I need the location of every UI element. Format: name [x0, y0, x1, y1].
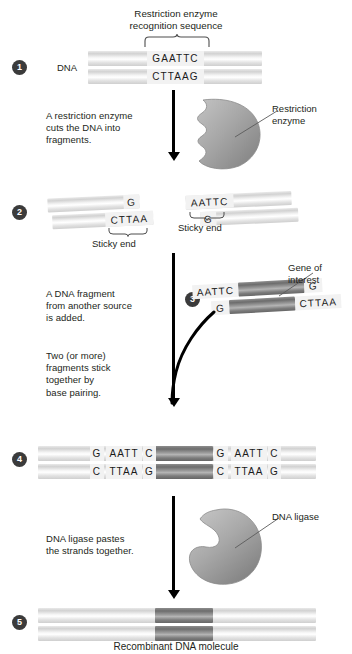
recognition-sequence-title: Restriction enzyme recognition sequence	[96, 8, 256, 32]
step4-gene-of-interest-top	[155, 446, 213, 461]
step1-caption-line3: fragments.	[46, 134, 166, 146]
step4-caption-line2: fragments stick	[46, 362, 166, 374]
step3-curved-arrow	[168, 310, 220, 405]
step-badge-1-number: 1	[17, 63, 22, 72]
step-badge-5-number: 5	[17, 618, 22, 627]
step4-gene-of-interest-bottom	[155, 464, 213, 479]
step3-caption-line1: A DNA fragment	[46, 288, 171, 300]
step4-top-seq-1: G	[90, 446, 104, 461]
restriction-enzyme-label-line1: Restriction	[272, 103, 317, 115]
recognition-sequence-brace	[143, 34, 211, 48]
step-badge-1: 1	[12, 60, 27, 75]
dna-label: DNA	[57, 62, 77, 74]
step5-caption-line2: the strands together.	[46, 545, 176, 557]
step2-left-bottom-sequence: CTTAA	[105, 211, 154, 227]
step2-left-sticky-brace	[108, 227, 148, 237]
arrow-3-head	[168, 590, 180, 599]
step-badge-4-number: 4	[17, 455, 22, 464]
step5-gene-of-interest-top	[155, 608, 213, 623]
arrow-1-line	[172, 90, 175, 152]
step4-caption-line3: together by	[46, 374, 166, 386]
step2-right-sticky-label: Sticky end	[178, 222, 222, 234]
restriction-enzyme-label-line2: enzyme	[272, 115, 317, 127]
step4-bottom-seq-3: G	[143, 464, 156, 479]
recognition-sequence-title-line2: recognition sequence	[96, 20, 256, 32]
dna-ligase-label: DNA ligase	[272, 511, 319, 523]
step1-top-sequence: GAATTC	[147, 51, 204, 66]
step4-top-seq-5: AATT	[231, 446, 267, 461]
step1-caption-line2: cuts the DNA into	[46, 122, 166, 134]
step2-left-sticky-label: Sticky end	[92, 238, 136, 250]
step4-bottom-seq-6: G	[268, 464, 281, 479]
step-badge-5: 5	[12, 615, 27, 630]
arrow-1-head	[168, 152, 180, 161]
step5-gene-of-interest-bottom	[155, 626, 213, 641]
step4-bottom-seq-2: TTAA	[106, 464, 142, 479]
gene-of-interest-label-line2: interest	[288, 274, 322, 286]
step4-top-seq-3: C	[143, 446, 156, 461]
step-badge-4: 4	[12, 452, 27, 467]
step4-bottom-seq-5: TTAA	[231, 464, 267, 479]
step5-caption: DNA ligase pastes the strands together.	[46, 533, 176, 557]
step5-caption-line1: DNA ligase pastes	[46, 533, 176, 545]
gene-of-interest-label-line1: Gene of	[288, 262, 322, 274]
step3-caption: A DNA fragment from another source is ad…	[46, 288, 171, 325]
step4-caption: Two (or more) fragments stick together b…	[46, 350, 166, 399]
step2-right-sticky-brace	[189, 211, 225, 221]
arrow-2-head	[168, 398, 180, 407]
step1-caption-line1: A restriction enzyme	[46, 110, 166, 122]
step4-bottom-seq-1: C	[90, 464, 104, 479]
step4-bottom-seq-4: C	[214, 464, 228, 479]
step-badge-2-number: 2	[17, 208, 22, 217]
step1-caption: A restriction enzyme cuts the DNA into f…	[46, 110, 166, 147]
step4-caption-line4: base pairing.	[46, 387, 166, 399]
step3-gene-of-interest-bottom	[229, 296, 296, 314]
step4-top-seq-2: AATT	[106, 446, 142, 461]
step1-bottom-sequence: CTTAAG	[147, 69, 204, 84]
step3-caption-line2: from another source	[46, 300, 171, 312]
gene-of-interest-label: Gene of interest	[288, 262, 322, 285]
step2-left-top-sequence: G	[123, 194, 140, 209]
recombinant-dna-caption: Recombinant DNA molecule	[0, 641, 352, 652]
step2-right-top-sequence: AATTC	[185, 194, 234, 210]
step4-top-seq-4: G	[214, 446, 228, 461]
recognition-sequence-title-line1: Restriction enzyme	[96, 8, 256, 20]
step3-caption-line3: is added.	[46, 312, 171, 324]
restriction-enzyme-label: Restriction enzyme	[272, 103, 317, 126]
step4-caption-line1: Two (or more)	[46, 350, 166, 362]
step3-top-sequence-left: AATTC	[192, 283, 239, 300]
step4-top-seq-6: C	[268, 446, 281, 461]
step-badge-2: 2	[12, 205, 27, 220]
